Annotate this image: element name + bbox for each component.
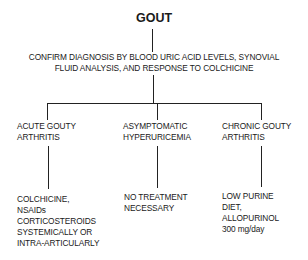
connector-treatment-1: [48, 146, 49, 189]
branch-horizontal-line: [47, 103, 262, 104]
treatment-3-line-2: DIET,: [222, 202, 242, 213]
connector-branch-3: [261, 103, 262, 120]
treatment-1-line-4: SYSTEMICALLY OR: [17, 227, 92, 238]
diagnosis-line-1: CONFIRM DIAGNOSIS BY BLOOD URIC ACID LEV…: [0, 52, 308, 63]
treatment-2-line-2: NECESSARY: [124, 203, 174, 214]
treatment-1-line-3: CORTICOSTEROIDS: [17, 216, 96, 227]
branch-2-label-line-1: ASYMPTOMATIC: [123, 121, 187, 132]
branch-3-label-line-2: ARTHRITIS: [222, 132, 265, 143]
branch-3-label-line-1: CHRONIC GOUTY: [222, 121, 291, 132]
treatment-1-line-1: COLCHICINE,: [17, 194, 69, 205]
treatment-3-line-3: ALLOPURINOL: [222, 213, 279, 224]
diagnosis-line-2: FLUID ANALYSIS, AND RESPONSE TO COLCHICI…: [0, 63, 308, 74]
treatment-1-line-2: NSAIDs: [17, 205, 46, 216]
diagram-title: GOUT: [0, 11, 308, 25]
connector-title-diagnosis: [152, 29, 153, 52]
treatment-1-line-5: INTRA-ARTICULARLY: [17, 238, 99, 249]
branch-1-label-line-2: ARTHRITIS: [17, 132, 60, 143]
connector-treatment-2: [157, 146, 158, 188]
connector-branch-2: [157, 103, 158, 120]
connector-branch-1: [47, 103, 48, 120]
treatment-3-line-1: LOW PURINE: [222, 191, 274, 202]
connector-treatment-3: [261, 146, 262, 187]
treatment-2-line-1: NO TREATMENT: [124, 192, 188, 203]
connector-diagnosis-branches: [153, 75, 154, 104]
treatment-3-line-4: 300 mg/day: [222, 224, 264, 235]
branch-2-label-line-2: HYPERURICEMIA: [123, 132, 191, 143]
branch-1-label-line-1: ACUTE GOUTY: [17, 121, 76, 132]
